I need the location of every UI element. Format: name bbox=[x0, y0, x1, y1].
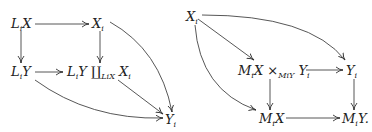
node-pullback: MiX ×MiY Yi bbox=[238, 64, 310, 80]
arrow-pushout-to-Yi bbox=[118, 80, 163, 114]
node-MiX: MiX bbox=[259, 112, 284, 128]
node-Yi-left: Yi bbox=[165, 113, 176, 129]
node-Xi-right: Xi bbox=[186, 10, 198, 26]
node-LiY: LiY bbox=[11, 65, 31, 81]
node-LiX: LiX bbox=[11, 17, 31, 33]
node-MiY: MiY. bbox=[342, 112, 369, 128]
node-pushout: LiY ∐LiX Xi bbox=[67, 65, 131, 81]
node-Xi-left: Xi bbox=[92, 17, 104, 33]
arrow-Xi-to-pullback bbox=[198, 19, 254, 60]
node-Yi-right: Yi bbox=[346, 64, 357, 80]
commutative-diagrams: LiX Xi LiY LiY ∐LiX Xi Yi Xi MiX ×MiY Yi… bbox=[0, 0, 372, 132]
